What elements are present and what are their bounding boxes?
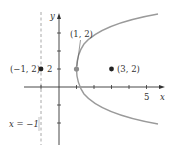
focus-label: (3, 2) xyxy=(117,64,140,74)
parabola-diagram: y x 5 2 (1, 2) (3, 2) (−1, 2) x = −1 xyxy=(0,0,178,145)
y-axis-arrow-icon xyxy=(57,13,61,19)
focus-point xyxy=(109,67,114,72)
x-tick-label-5: 5 xyxy=(144,92,149,102)
y-axis-label: y xyxy=(49,11,55,21)
directrix-point-label: (−1, 2) xyxy=(10,64,40,74)
directrix-label: x = −1 xyxy=(9,119,39,129)
y-tick-label-2: 2 xyxy=(47,64,52,74)
vertex-label: (1, 2) xyxy=(70,29,93,39)
x-axis-label: x xyxy=(160,92,165,102)
vertex-point xyxy=(74,66,79,71)
x-axis-arrow-icon xyxy=(159,85,165,89)
